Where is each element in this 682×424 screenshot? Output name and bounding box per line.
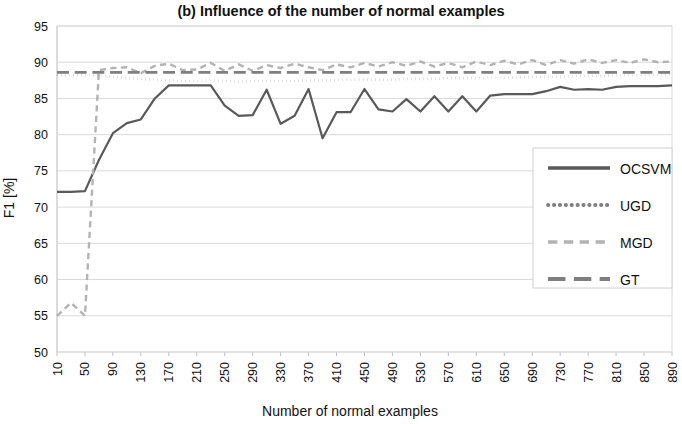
y-tick-label: 60 [34, 273, 48, 287]
x-tick-label: 650 [498, 362, 512, 383]
y-tick-label: 55 [34, 309, 48, 323]
y-tick-label: 90 [34, 56, 48, 70]
x-tick-label: 530 [414, 362, 428, 383]
y-tick-label: 65 [34, 237, 48, 251]
legend-label-ugd[interactable]: UGD [620, 198, 651, 214]
x-tick-label: 210 [190, 362, 204, 383]
x-tick-label: 250 [218, 362, 232, 383]
y-tick-label: 80 [34, 128, 48, 142]
y-tick-label: 75 [34, 164, 48, 178]
x-axis-title: Number of normal examples [262, 403, 438, 419]
legend-label-gt[interactable]: GT [620, 272, 640, 288]
chart-legend[interactable]: OCSVMUGDMGDGT [533, 148, 672, 288]
x-tick-label: 170 [162, 362, 176, 383]
x-tick-label: 730 [554, 362, 568, 383]
x-tick-label: 610 [470, 362, 484, 383]
x-tick-label: 410 [330, 362, 344, 383]
x-axis-tick-labels: 1050901301702102502903303704104504905305… [51, 362, 680, 383]
x-tick-label: 330 [274, 362, 288, 383]
x-tick-label: 850 [638, 362, 652, 383]
x-tick-label: 450 [358, 362, 372, 383]
x-tick-label: 370 [302, 362, 316, 383]
x-tick-label: 290 [246, 362, 260, 383]
legend-label-ocsvm[interactable]: OCSVM [620, 161, 671, 177]
y-tick-label: 50 [34, 346, 48, 360]
y-axis-title: F1 [%] [1, 178, 17, 218]
x-tick-label: 690 [526, 362, 540, 383]
chart-title: (b) Influence of the number of normal ex… [177, 3, 504, 19]
x-tick-label: 50 [78, 362, 92, 376]
legend-label-mgd[interactable]: MGD [620, 235, 653, 251]
x-tick-label: 130 [134, 362, 148, 383]
y-tick-label: 70 [34, 201, 48, 215]
x-tick-label: 90 [106, 362, 120, 376]
x-tick-label: 810 [610, 362, 624, 383]
x-tick-label: 570 [442, 362, 456, 383]
x-tick-label: 890 [666, 362, 680, 383]
chart-canvas: (b) Influence of the number of normal ex… [0, 0, 682, 424]
y-tick-label: 95 [34, 20, 48, 34]
x-tick-label: 770 [582, 362, 596, 383]
y-tick-label: 85 [34, 92, 48, 106]
x-tick-label: 490 [386, 362, 400, 383]
x-tick-label: 10 [51, 362, 65, 376]
